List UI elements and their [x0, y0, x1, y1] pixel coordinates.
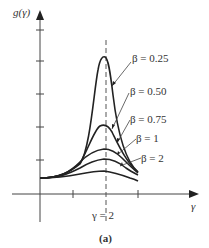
- x-axis-arrow-icon: [189, 190, 199, 198]
- resonance-chart: β = 0.25 β = 0.50 β = 0.75 β = 1 β = 2 g…: [0, 0, 209, 248]
- caption: (a): [99, 232, 112, 245]
- y-axis-arrow-icon: [36, 10, 44, 20]
- legend-beta-0.50: β = 0.50: [130, 85, 167, 97]
- curves: [40, 57, 138, 181]
- legend-beta-2: β = 2: [141, 152, 164, 164]
- legend: β = 0.25 β = 0.50 β = 0.75 β = 1 β = 2: [130, 52, 169, 164]
- y-axis-label: g(γ): [13, 6, 30, 19]
- legend-beta-1: β = 1: [136, 132, 159, 144]
- x-axis-label: γ: [191, 200, 196, 212]
- legend-beta-0.25: β = 0.25: [132, 52, 169, 64]
- legend-beta-0.75: β = 0.75: [130, 113, 167, 125]
- gamma-2-label: γ = 2: [91, 209, 114, 221]
